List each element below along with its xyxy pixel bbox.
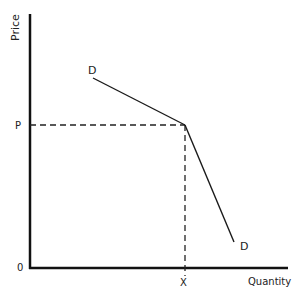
demand-upper-label: D	[88, 64, 96, 77]
x-axis-label: Quantity	[248, 276, 291, 287]
kinked-demand-diagram: Price Quantity 0 P X D D	[0, 0, 297, 295]
demand-upper-segment	[93, 78, 185, 125]
origin-label: 0	[17, 262, 23, 273]
quantity-tick-label: X	[180, 277, 187, 288]
y-axis-label: Price	[9, 14, 22, 41]
demand-lower-label: D	[240, 240, 248, 253]
price-tick-label: P	[15, 120, 21, 131]
demand-lower-segment	[185, 125, 234, 242]
